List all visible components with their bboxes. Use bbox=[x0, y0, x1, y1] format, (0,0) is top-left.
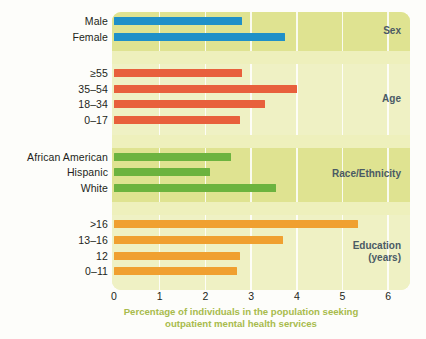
bar bbox=[114, 69, 242, 77]
category-label: 13–16 bbox=[4, 235, 108, 245]
x-axis: 0123456 bbox=[112, 290, 410, 306]
x-axis-title: Percentage of individuals in the populat… bbox=[96, 306, 386, 329]
bar bbox=[114, 17, 242, 25]
group-label-line: Age bbox=[382, 93, 401, 105]
category-label: 0–11 bbox=[4, 266, 108, 276]
category-label: 18–34 bbox=[4, 99, 108, 109]
group-label-line: Education bbox=[353, 240, 401, 252]
bar bbox=[114, 100, 265, 108]
group-label-line: (years) bbox=[353, 252, 401, 264]
category-label: ≥55 bbox=[4, 68, 108, 78]
x-axis-title-line-1: Percentage of individuals in the populat… bbox=[96, 306, 386, 318]
gridline-4 bbox=[296, 12, 298, 51]
bar bbox=[114, 153, 231, 161]
category-label: White bbox=[4, 183, 108, 193]
gridline-5 bbox=[342, 64, 344, 134]
group-label-race-ethnicity: Race/Ethnicity bbox=[332, 168, 401, 180]
gridline-4 bbox=[296, 64, 298, 134]
x-axis-title-line-2: outpatient mental health services bbox=[96, 318, 386, 330]
category-label: Male bbox=[4, 16, 108, 26]
x-tick-label: 4 bbox=[294, 290, 300, 302]
gridline-5 bbox=[342, 12, 344, 51]
category-label: Female bbox=[4, 32, 108, 42]
category-label: 35–54 bbox=[4, 84, 108, 94]
bar bbox=[114, 33, 285, 41]
gridline-4 bbox=[296, 148, 298, 203]
gridline-3 bbox=[250, 148, 252, 203]
bar bbox=[114, 184, 276, 192]
bar bbox=[114, 220, 358, 228]
category-label: Hispanic bbox=[4, 167, 108, 177]
group-label-sex: Sex bbox=[383, 25, 401, 37]
group-label-education-years: Education(years) bbox=[353, 240, 401, 263]
category-labels-column: MaleFemale≥5535–5418–340–17African Ameri… bbox=[0, 0, 108, 300]
bar bbox=[114, 267, 237, 275]
plot-area: SexAgeRace/EthnicityEducation(years) bbox=[112, 12, 410, 290]
category-label: >16 bbox=[4, 219, 108, 229]
x-tick-label: 2 bbox=[202, 290, 208, 302]
gridline-3 bbox=[250, 64, 252, 134]
category-label: 0–17 bbox=[4, 115, 108, 125]
x-tick-label: 3 bbox=[248, 290, 254, 302]
bar bbox=[114, 168, 210, 176]
group-label-age: Age bbox=[382, 93, 401, 105]
category-label: 12 bbox=[4, 251, 108, 261]
x-tick-label: 5 bbox=[340, 290, 346, 302]
bar bbox=[114, 116, 240, 124]
bar bbox=[114, 252, 240, 260]
group-label-line: Sex bbox=[383, 25, 401, 37]
group-label-line: Race/Ethnicity bbox=[332, 168, 401, 180]
bar bbox=[114, 85, 297, 93]
x-tick-label: 1 bbox=[157, 290, 163, 302]
bar-chart-figure: MaleFemale≥5535–5418–340–17African Ameri… bbox=[0, 0, 426, 339]
bar bbox=[114, 236, 283, 244]
x-tick-label: 0 bbox=[111, 290, 117, 302]
x-tick-label: 6 bbox=[385, 290, 391, 302]
gridline-3 bbox=[250, 12, 252, 51]
category-label: African American bbox=[4, 152, 108, 162]
